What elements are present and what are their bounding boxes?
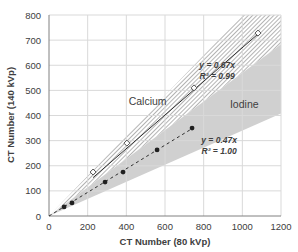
- region-label-calcium: Calcium: [129, 95, 167, 107]
- y-tick-label: 300: [25, 135, 41, 146]
- data-point-filled: [121, 170, 126, 175]
- region-label-iodine: Iodine: [230, 98, 259, 110]
- equation-label: R² = 1.00: [202, 146, 237, 156]
- y-tick-labels: 0100200300400500600700800: [25, 10, 41, 222]
- y-axis-title: CT Number (140 kVp): [5, 67, 16, 163]
- data-point-filled: [190, 126, 195, 131]
- equation-label: R² = 0.99: [200, 71, 235, 81]
- x-axis-title: CT Number (80 kVp): [120, 236, 211, 247]
- y-tick-label: 0: [36, 211, 41, 222]
- y-tick-label: 700: [25, 35, 41, 46]
- data-point-filled: [62, 205, 67, 210]
- y-tick-label: 400: [25, 110, 41, 121]
- x-tick-labels: 020040060080010001200: [46, 221, 291, 232]
- x-tick-label: 1200: [270, 221, 291, 232]
- data-point-filled: [70, 201, 75, 206]
- x-tick-label: 0: [46, 221, 51, 232]
- data-point-filled: [103, 180, 108, 185]
- y-tick-label: 600: [25, 60, 41, 71]
- x-tick-label: 600: [157, 221, 173, 232]
- chart: 020040060080010001200 010020030040050060…: [0, 0, 298, 252]
- y-tick-label: 500: [25, 85, 41, 96]
- x-tick-label: 1000: [232, 221, 253, 232]
- equation-label: y = 0.47x: [200, 135, 238, 145]
- x-tick-label: 800: [196, 221, 212, 232]
- x-tick-label: 400: [118, 221, 134, 232]
- equation-label: y = 0.67x: [198, 60, 236, 70]
- x-tick-label: 200: [80, 221, 96, 232]
- y-tick-label: 100: [25, 185, 41, 196]
- y-tick-label: 200: [25, 160, 41, 171]
- data-point-filled: [155, 148, 160, 153]
- y-tick-label: 800: [25, 10, 41, 21]
